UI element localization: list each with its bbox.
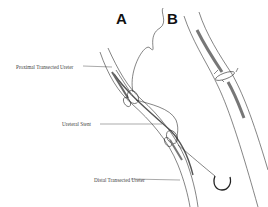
panel-a-ureter <box>100 8 231 207</box>
surgical-illustration <box>0 0 268 207</box>
panel-b-ureter <box>184 12 268 207</box>
leader-lines <box>83 66 180 180</box>
